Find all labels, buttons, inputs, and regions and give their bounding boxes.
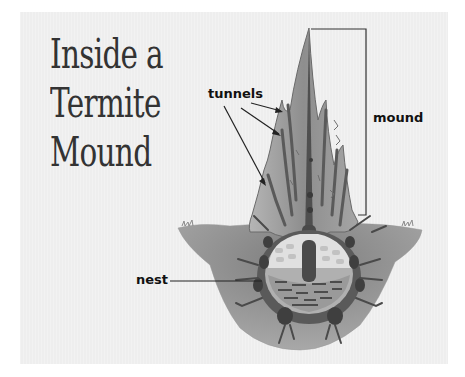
label-tunnels: tunnels — [208, 86, 263, 101]
label-nest: nest — [136, 272, 168, 287]
termite-mound-illustration — [0, 0, 465, 377]
label-mound: mound — [373, 110, 423, 125]
